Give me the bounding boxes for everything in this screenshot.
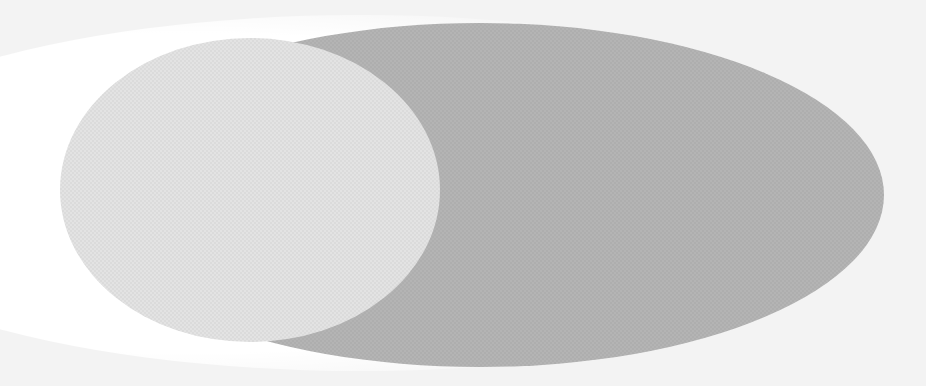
- small-ellipse-texture: [60, 38, 440, 342]
- overlapping-ellipses-diagram: [0, 0, 926, 386]
- diagram-canvas: [0, 0, 926, 386]
